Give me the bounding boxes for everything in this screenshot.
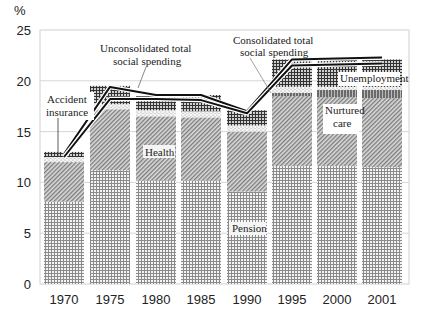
y-axis-unit: % (14, 3, 26, 18)
bar-1990 (227, 110, 267, 284)
bar-segment-pension (362, 167, 402, 284)
y-tick-label: 25 (17, 23, 31, 38)
y-tick-label: 5 (24, 226, 31, 241)
bar-segment-pension (136, 180, 176, 284)
bar-segment-pension (90, 170, 130, 284)
bar-segment-health (44, 162, 84, 202)
bar-segment-accident-insurance (362, 87, 402, 90)
bar-segment-health (272, 96, 312, 166)
x-tick-label: 1990 (233, 292, 262, 307)
y-tick-label: 15 (17, 125, 31, 140)
x-axis: 19701975198019851990199520002001 (50, 292, 397, 307)
annotation-cons-1: Consolidated total (233, 34, 313, 46)
bar-1985 (181, 95, 221, 284)
annotation-uncons-1: Unconsolidated total (100, 42, 191, 54)
bar-segment-pension (227, 192, 267, 284)
bar-segment-health (181, 117, 221, 180)
x-tick-label: 1970 (50, 292, 79, 307)
y-tick-label: 20 (17, 74, 31, 89)
bar-segment-accident-insurance (44, 157, 84, 162)
annotation-nurtured-1: Nurtured (325, 104, 365, 116)
x-tick-label: 2000 (323, 292, 352, 307)
bar-1970 (44, 152, 84, 284)
bar-segment-accident-insurance (317, 87, 357, 90)
bar-segment-health (227, 132, 267, 192)
y-tick-label: 0 (24, 277, 31, 292)
x-tick-label: 1975 (96, 292, 125, 307)
y-tick-label: 10 (17, 175, 31, 190)
bar-segment-pension (272, 166, 312, 284)
bar-segment-accident-insurance (227, 126, 267, 132)
bar-segment-nurtured-care (362, 90, 402, 98)
bar-segment-pension (317, 166, 357, 284)
x-tick-label: 2001 (368, 292, 397, 307)
annotation-unemployment: Unemployment (340, 72, 408, 84)
bar-segment-accident-insurance (136, 110, 176, 116)
annotation-accident-1: Accident (47, 93, 87, 105)
stacked-bar-chart: 0510152025 19701975198019851990199520002… (0, 0, 427, 318)
x-tick-label: 1980 (142, 292, 171, 307)
x-tick-label: 1985 (187, 292, 216, 307)
x-tick-label: 1995 (278, 292, 307, 307)
annotation-cons-2: social spending (240, 46, 309, 58)
bar-segment-pension (44, 202, 84, 284)
bar-1980 (136, 96, 176, 284)
bar-segment-health (362, 98, 402, 167)
bar-segment-accident-insurance (181, 111, 221, 117)
bar-segment-pension (181, 180, 221, 284)
annotation-pension: Pension (232, 222, 267, 234)
bar-segment-accident-insurance (272, 87, 312, 93)
annotation-accident-2: insurance (46, 106, 88, 118)
bar-1995 (272, 59, 312, 284)
annotation-health: Health (145, 146, 175, 158)
annotation-uncons-2: social spending (113, 55, 182, 67)
bar-segment-nurtured-care (272, 93, 312, 96)
bar-segment-nurtured-care (317, 90, 357, 97)
y-axis: 0510152025 (17, 23, 31, 292)
annotation-nurtured-2: care (333, 117, 351, 129)
bar-2001 (362, 59, 402, 284)
bar-2000 (317, 59, 357, 284)
